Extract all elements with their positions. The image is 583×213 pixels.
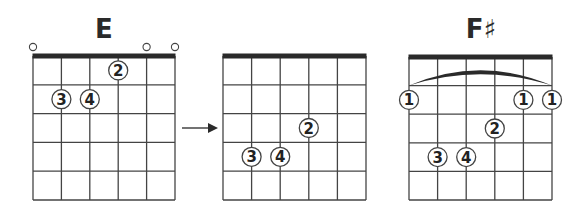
- nut: [409, 55, 553, 60]
- finger-marker: 1: [514, 90, 533, 109]
- finger-marker: 1: [543, 90, 562, 109]
- finger-number: 1: [404, 91, 414, 109]
- nut: [33, 54, 176, 59]
- open-string-icon: [29, 43, 36, 50]
- finger-number: 4: [85, 91, 95, 109]
- finger-number: 3: [246, 148, 256, 166]
- finger-marker: 2: [299, 119, 318, 138]
- arrow-icon: [182, 123, 218, 133]
- finger-marker: 1: [400, 90, 419, 109]
- finger-marker: 2: [109, 61, 128, 80]
- chord-diagram-3: 111234: [400, 55, 562, 201]
- finger-number: 1: [518, 91, 528, 109]
- finger-number: 1: [547, 91, 557, 109]
- finger-marker: 3: [242, 147, 261, 166]
- nut: [223, 54, 367, 59]
- finger-marker: 4: [80, 90, 99, 109]
- finger-number: 2: [304, 120, 314, 138]
- finger-number: 4: [275, 148, 285, 166]
- arrow-head: [208, 123, 218, 133]
- chord-diagram-1: 234: [29, 43, 178, 200]
- finger-marker: 4: [457, 148, 476, 167]
- finger-marker: 3: [52, 90, 71, 109]
- finger-number: 3: [56, 91, 66, 109]
- finger-marker: 3: [428, 148, 447, 167]
- chord-diagram-2: 234: [223, 54, 367, 201]
- finger-number: 3: [432, 149, 442, 167]
- finger-marker: 2: [485, 119, 504, 138]
- finger-number: 4: [461, 149, 471, 167]
- finger-number: 2: [490, 120, 500, 138]
- finger-number: 2: [113, 62, 123, 80]
- barre-arc: [409, 70, 552, 85]
- open-string-icon: [171, 43, 178, 50]
- open-string-icon: [143, 43, 150, 50]
- finger-marker: 4: [271, 147, 290, 166]
- chord-diagram-canvas: 234234111234: [0, 0, 583, 213]
